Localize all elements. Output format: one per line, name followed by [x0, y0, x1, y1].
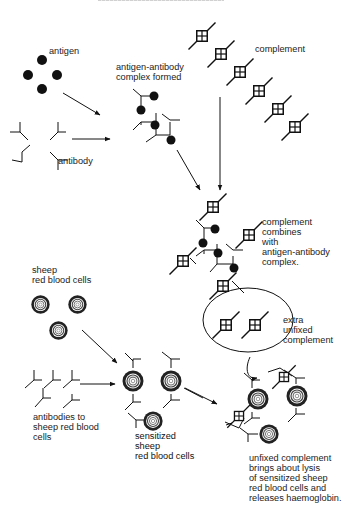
antigen-dot	[199, 239, 208, 248]
antibody-y	[63, 394, 80, 408]
lysed-cells	[225, 365, 308, 443]
antibody-y	[25, 370, 42, 388]
label-antibody: antibody	[58, 156, 93, 166]
label-antigen: antigen	[49, 46, 79, 56]
complement-icon	[242, 312, 269, 339]
complement-icon	[210, 273, 237, 300]
antigen-dot	[137, 106, 146, 115]
arrow	[63, 93, 100, 115]
antibody-y	[12, 145, 30, 162]
red-blood-cell	[259, 424, 278, 443]
antigen-dot	[52, 70, 62, 80]
arrow	[177, 150, 200, 190]
label-extra-unfixed: extra unfixed complement	[283, 315, 333, 345]
antigen-antibody-complex	[133, 89, 180, 145]
sensitized-cells	[123, 352, 204, 431]
complement-group	[189, 23, 309, 141]
label-antibodies-to-sheep: antibodies to sheep red blood cells	[33, 412, 99, 442]
red-blood-cell	[287, 386, 308, 407]
red-blood-cell	[143, 411, 162, 430]
arrow	[185, 388, 217, 404]
red-blood-cell	[248, 389, 269, 410]
antigen-dot	[211, 225, 220, 234]
fixed-complement	[170, 194, 263, 300]
antibody-y	[63, 370, 80, 388]
extra-unfixed-ellipse	[203, 288, 293, 352]
red-blood-cell	[161, 371, 182, 392]
complement-icon	[227, 59, 254, 86]
label-sensitized: sensitized sheep red blood cells	[135, 431, 194, 461]
antigen-dot	[37, 55, 47, 65]
antigen-dot	[150, 92, 159, 101]
red-blood-cell	[123, 371, 144, 392]
complement-icon	[189, 23, 216, 50]
label-complex-formed: antigen-antibody complex formed	[116, 62, 184, 82]
complement-icon	[246, 78, 273, 105]
complement-icon	[272, 365, 295, 388]
label-lysis: unfixed complement brings about lysis of…	[249, 453, 341, 503]
arrows	[63, 93, 257, 404]
complement-icon	[208, 41, 235, 68]
antigen-dot	[37, 84, 47, 94]
complement-icon	[282, 114, 309, 141]
arrow	[82, 330, 117, 363]
label-complement-combines: complement combines with antigen-antibod…	[262, 217, 330, 267]
antigen-group	[23, 55, 62, 94]
red-blood-cell	[68, 295, 86, 313]
antigen-dot	[214, 249, 223, 258]
antigen-dot	[151, 121, 160, 130]
sheep-rbc-group	[31, 295, 86, 339]
red-blood-cell	[31, 295, 49, 313]
antigen-dot	[23, 70, 33, 80]
complement-icon	[213, 312, 240, 339]
antigen-dot	[230, 264, 239, 273]
antibody-y	[10, 122, 28, 140]
red-blood-cell	[49, 321, 67, 339]
arrow	[247, 357, 257, 378]
complement-icon	[236, 222, 263, 249]
complement-icon	[265, 96, 292, 123]
label-sheep-rbc: sheep red blood cells	[32, 265, 91, 285]
antibodies-to-sheep	[25, 370, 80, 408]
antibody-y	[35, 388, 51, 407]
antibody-y	[44, 370, 61, 388]
antibody-y	[50, 122, 66, 140]
label-complement: complement	[255, 44, 305, 54]
complement-icon	[227, 404, 250, 427]
complement-icon	[200, 194, 227, 221]
antigen-dot	[167, 136, 176, 145]
